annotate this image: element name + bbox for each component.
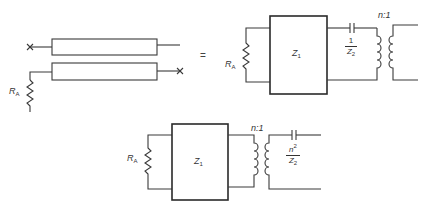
ra-label-left: RA <box>9 87 20 97</box>
cap-label-bottom: n2 Z2 <box>286 143 300 166</box>
z1-label-top: Z1 <box>292 49 301 59</box>
resistor-ra-top <box>243 28 270 82</box>
cap-label-top: 1 Z2 <box>345 37 357 57</box>
z1-label-bottom: Z1 <box>194 157 203 167</box>
ra-label-top: RA <box>225 60 236 70</box>
resistor-ra-left <box>27 80 33 112</box>
circuit-diagram <box>0 0 436 213</box>
turns-ratio-bottom: n:1 <box>251 124 264 133</box>
coax-section-top <box>30 39 180 55</box>
transformer-top <box>327 25 418 80</box>
coax-section-bottom <box>30 63 180 80</box>
ra-label-bottom: RA <box>127 154 138 164</box>
series-capacitor-bottom <box>292 130 321 140</box>
equals-sign: = <box>200 50 206 61</box>
turns-ratio-top: n:1 <box>378 11 391 20</box>
series-capacitor-top <box>327 23 377 33</box>
transformer-bottom <box>228 135 321 189</box>
resistor-ra-bottom <box>145 135 172 189</box>
